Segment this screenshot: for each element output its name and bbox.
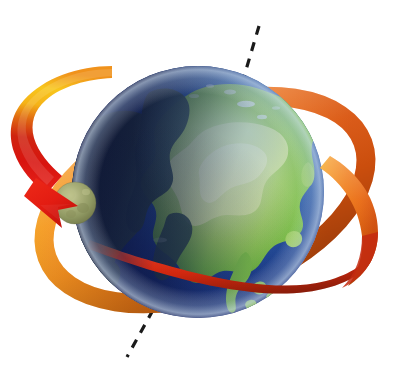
earth-moon-diagram xyxy=(0,0,397,368)
axis-line-bottom xyxy=(127,310,153,357)
axis-line-top xyxy=(243,26,259,80)
illustration-canvas: Earth rotation and Moon orbit diagram xyxy=(0,0,397,368)
